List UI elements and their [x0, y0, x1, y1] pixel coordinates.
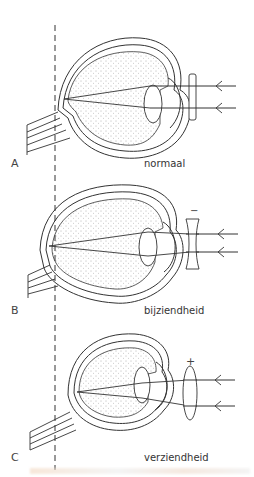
cropped-caption-fragment: [30, 468, 250, 474]
concave-lens-sign: −: [190, 205, 198, 216]
panel-a-eye: [27, 38, 236, 158]
convex-lens-sign: +: [186, 355, 195, 368]
panel-c-caption: verziendheid: [144, 452, 209, 463]
panel-a-letter: A: [11, 157, 19, 170]
panel-c-letter: C: [11, 451, 19, 464]
panel-b-eye: [28, 185, 238, 303]
panel-c-eye: [30, 334, 235, 450]
panel-b-concave-lens: [186, 219, 199, 269]
panel-b-caption: bijziendheid: [144, 305, 204, 316]
panel-a-flat-lens: [189, 74, 196, 120]
eye-refraction-diagram: [0, 0, 254, 477]
panel-b-letter: B: [11, 304, 19, 317]
panel-a-caption: normaal: [144, 158, 185, 169]
panel-c-convex-lens: [183, 366, 197, 420]
